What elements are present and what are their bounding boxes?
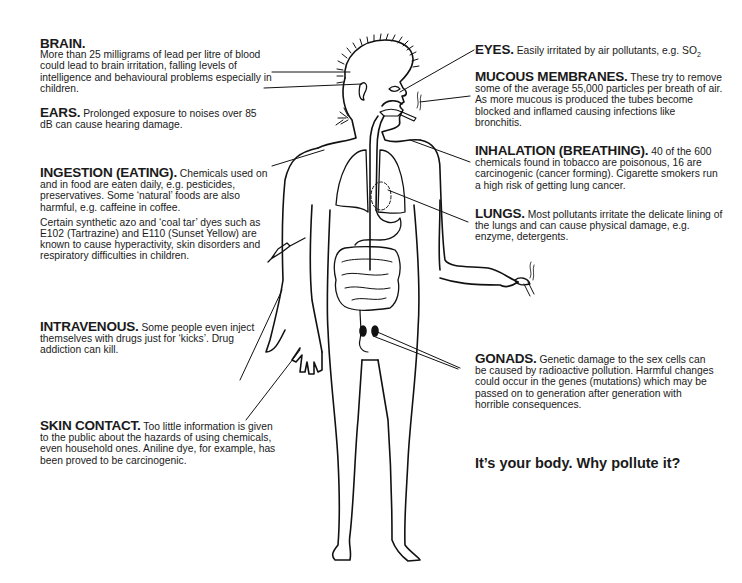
lungs-title: LUNGS. xyxy=(475,206,525,221)
annotation-skin-contact: SKIN CONTACT. Too little information is … xyxy=(40,420,276,466)
mucous-title: MUCOUS MEMBRANES. xyxy=(475,69,628,84)
gonad-left xyxy=(360,326,366,336)
eyes-title: EYES. xyxy=(475,42,514,57)
skin-title: SKIN CONTACT. xyxy=(40,418,141,433)
head-outline xyxy=(345,40,420,142)
brain-title: BRAIN. xyxy=(40,38,276,49)
stomach xyxy=(355,210,401,245)
annotation-mucous-membranes: MUCOUS MEMBRANES. These try to remove so… xyxy=(475,71,723,128)
eyes-subscript: 2 xyxy=(697,51,701,58)
annotation-intravenous: INTRAVENOUS. Some people even inject the… xyxy=(40,321,270,356)
annotation-inhalation: INHALATION (BREATHING). 40 of the 600 ch… xyxy=(475,145,725,191)
annotation-ingestion: INGESTION (EATING). Chemicals used on an… xyxy=(40,167,276,262)
gonads-title: GONADS. xyxy=(475,351,537,366)
annotation-brain: BRAIN. More than 25 milligrams of lead p… xyxy=(40,38,276,94)
intravenous-title: INTRAVENOUS. xyxy=(40,319,139,334)
ingestion-title: INGESTION (EATING). xyxy=(40,165,177,180)
annotation-eyes: EYES. Easily irritated by air pollutants… xyxy=(475,44,737,60)
cigarette-icon xyxy=(401,112,416,121)
annotation-ears: EARS. Prolonged exposure to noises over … xyxy=(40,107,266,130)
ingestion-text-2: Certain synthetic azo and ‘coal tar’ dye… xyxy=(40,217,276,262)
annotation-lungs: LUNGS. Most pollutants irritate the deli… xyxy=(475,208,725,243)
eye-icon xyxy=(389,86,400,91)
ears-title: EARS. xyxy=(40,105,80,120)
annotation-gonads: GONADS. Genetic damage to the sex cells … xyxy=(475,353,715,410)
inhalation-title: INHALATION (BREATHING). xyxy=(475,143,648,158)
intestines xyxy=(334,247,400,311)
ear-icon xyxy=(359,83,366,100)
eyes-text: Easily irritated by air pollutants, e.g.… xyxy=(517,45,697,56)
brain-text: More than 25 milligrams of lead per litr… xyxy=(40,49,276,94)
lung-left xyxy=(336,150,368,212)
slogan: It’s your body. Why pollute it? xyxy=(475,455,680,471)
